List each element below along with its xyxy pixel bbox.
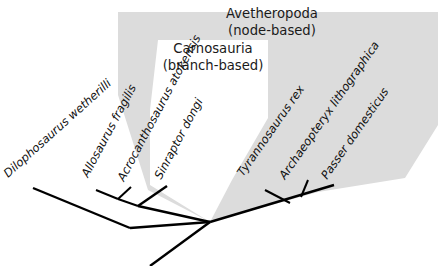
cladogram-canvas: Avetheropoda (node-based) Carnosauria (b… — [0, 0, 444, 266]
branch-carnosauria-to-allosaurus-node — [118, 199, 138, 206]
clade-name-avetheropoda: Avetheropoda — [226, 6, 318, 21]
branch-allosaurus — [96, 190, 118, 199]
branch-spine-to-dilophosaurus-node — [130, 222, 210, 228]
branch-dilophosaurus — [33, 188, 130, 228]
cladogram-figure: Avetheropoda (node-based) Carnosauria (b… — [0, 0, 444, 266]
branch-root-spine — [150, 222, 210, 266]
clade-kind-avetheropoda: (node-based) — [228, 23, 316, 38]
branch-acrocanthosaurus — [118, 187, 131, 199]
